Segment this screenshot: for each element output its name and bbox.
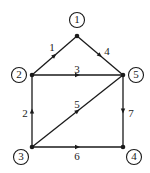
edge-label: 2 <box>22 107 28 119</box>
edge-label: 6 <box>74 150 80 162</box>
node-dot <box>30 73 35 78</box>
node-label: 4 <box>131 150 137 162</box>
edge-label: 4 <box>104 45 110 57</box>
node-label: 1 <box>74 13 80 25</box>
arrow-icon <box>30 109 34 114</box>
arrow-icon <box>75 145 80 149</box>
graph-diagram: 123456712345 <box>0 0 150 173</box>
edge-label: 3 <box>74 63 80 75</box>
node-dot <box>30 145 35 150</box>
node-label: 3 <box>18 150 24 162</box>
edge-label: 1 <box>49 41 55 53</box>
arrow-icon <box>121 109 125 114</box>
node-dot <box>121 145 126 150</box>
edge-label: 7 <box>128 107 134 119</box>
node-label: 5 <box>133 68 139 80</box>
node-dot <box>121 73 126 78</box>
node-label: 2 <box>16 68 22 80</box>
edge-label: 5 <box>74 98 80 110</box>
node-dot <box>75 34 80 39</box>
